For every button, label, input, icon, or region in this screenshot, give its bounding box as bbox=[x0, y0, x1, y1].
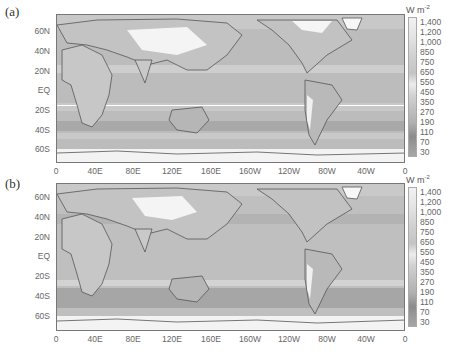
y-tick-label: 40S bbox=[6, 291, 50, 301]
panel-label: (b) bbox=[5, 176, 20, 192]
x-tick-label: 40E bbox=[87, 334, 102, 344]
colorbar-label: 270 bbox=[420, 107, 434, 117]
x-tick-label: 0 bbox=[54, 334, 59, 344]
colorbar-label: 850 bbox=[420, 47, 434, 57]
colorbar-label: 650 bbox=[420, 237, 434, 247]
colorbar-label: 110 bbox=[420, 297, 434, 307]
colorbar-label: 850 bbox=[420, 217, 434, 227]
colorbar-label: 750 bbox=[420, 57, 434, 67]
y-tick-label: 40N bbox=[6, 46, 50, 56]
colorbar-label: 550 bbox=[420, 77, 434, 87]
colorbar-label: 70 bbox=[420, 307, 429, 317]
colorbar-label: 550 bbox=[420, 247, 434, 257]
x-tick-label: 40W bbox=[357, 334, 374, 344]
y-tick-label: 20S bbox=[6, 105, 50, 115]
x-tick-label: 160E bbox=[201, 334, 221, 344]
y-tick-label: 60N bbox=[6, 192, 50, 202]
colorbar-label: 270 bbox=[420, 277, 434, 287]
colorbar-label: 350 bbox=[420, 97, 434, 107]
colorbar-label: 110 bbox=[420, 127, 434, 137]
colorbar-unit: W m-2 bbox=[406, 4, 430, 15]
colorbar-label: 1,400 bbox=[420, 17, 441, 27]
colorbar-label: 190 bbox=[420, 287, 434, 297]
colorbar-label: 30 bbox=[420, 317, 429, 327]
colorbar-label: 1,000 bbox=[420, 207, 441, 217]
y-tick-label: EQ bbox=[6, 251, 50, 261]
colorbar-label: 190 bbox=[420, 117, 434, 127]
panel-b: (b) 60N 40N 20N E bbox=[0, 170, 455, 358]
colorbar-label: 450 bbox=[420, 87, 434, 97]
x-tick-label: 0 bbox=[403, 334, 408, 344]
x-tick-label: 120E bbox=[162, 334, 182, 344]
y-tick-label: 60N bbox=[6, 26, 50, 36]
y-tick-label: EQ bbox=[6, 85, 50, 95]
colorbar-label: 30 bbox=[420, 147, 429, 157]
y-tick-label: 20S bbox=[6, 271, 50, 281]
y-tick-label: 40S bbox=[6, 125, 50, 135]
y-tick-label: 40N bbox=[6, 212, 50, 222]
colorbar-unit: W m-2 bbox=[406, 174, 430, 185]
world-map bbox=[56, 183, 405, 331]
panel-a: (a) bbox=[0, 0, 455, 180]
y-tick-label: 20N bbox=[6, 232, 50, 242]
colorbar-label: 450 bbox=[420, 257, 434, 267]
x-tick-label: 120W bbox=[278, 334, 300, 344]
y-tick-label: 60S bbox=[6, 311, 50, 321]
colorbar-label: 1,000 bbox=[420, 37, 441, 47]
colorbar-label: 1,200 bbox=[420, 197, 441, 207]
colorbar bbox=[408, 187, 417, 327]
x-tick-label: 80W bbox=[318, 334, 335, 344]
colorbar-label: 650 bbox=[420, 67, 434, 77]
panel-label: (a) bbox=[5, 4, 19, 20]
colorbar-label: 1,400 bbox=[420, 187, 441, 197]
y-tick-label: 20N bbox=[6, 66, 50, 76]
y-tick-label: 60S bbox=[6, 144, 50, 154]
colorbar-label: 750 bbox=[420, 227, 434, 237]
colorbar-label: 350 bbox=[420, 267, 434, 277]
colorbar bbox=[408, 17, 417, 157]
x-tick-label: 80E bbox=[125, 334, 140, 344]
colorbar-label: 70 bbox=[420, 137, 429, 147]
colorbar-label: 1,200 bbox=[420, 27, 441, 37]
world-map bbox=[56, 14, 405, 163]
x-tick-label: 160W bbox=[239, 334, 261, 344]
